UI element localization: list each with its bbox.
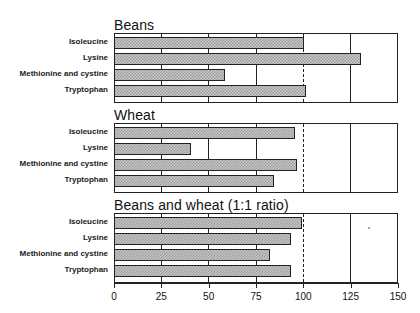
bar-lysine [115,143,191,155]
panel-title-beans: Beans [114,18,154,32]
row-label-isoleucine: Isoleucine [69,127,108,137]
x-tick-label-50: 50 [203,291,214,303]
bar-lysine [115,233,291,245]
row-label-tryptophan: Tryptophan [64,85,108,95]
row-label-methionine-and-cystine: Methionine and cystine [20,159,108,169]
panel-title-wheat: Wheat [114,108,155,122]
x-tick-label-0: 0 [111,291,117,303]
bar-isoleucine [115,127,295,139]
x-tick-125 [351,283,352,288]
bar-methionine-and-cystine [115,249,270,261]
reference-line-100 [303,124,304,192]
bar-tryptophan [115,265,291,277]
bar-isoleucine [115,217,302,229]
bar-methionine-and-cystine [115,159,297,171]
x-tick-label-75: 75 [250,291,261,303]
row-label-lysine: Lysine [83,143,108,153]
x-tick-50 [209,283,210,288]
bar-lysine [115,53,361,65]
x-tick-0 [114,283,115,288]
amino-acid-chart: Beans Wheat Beans and wheat (1:1 ratio) … [0,0,420,313]
x-tick-label-125: 125 [342,291,359,303]
panel-wheat [114,123,398,193]
row-label-tryptophan: Tryptophan [64,265,108,275]
bar-isoleucine [115,37,304,49]
bar-tryptophan [115,175,274,187]
row-label-tryptophan: Tryptophan [64,175,108,185]
x-tick-150 [398,283,399,288]
gridline-125 [350,34,351,102]
row-label-lysine: Lysine [83,53,108,63]
gridline-125 [350,124,351,192]
row-label-isoleucine: Isoleucine [69,37,108,47]
x-tick-100 [303,283,304,288]
gridline-125 [350,214,351,282]
reference-line-100 [303,214,304,282]
x-tick-label-100: 100 [295,291,312,303]
scan-speck [368,227,370,229]
panel-beans [114,33,398,103]
x-tick-25 [161,283,162,288]
x-tick-label-25: 25 [156,291,167,303]
panel-beans-and-wheat [114,213,398,283]
bar-tryptophan [115,85,306,97]
panel-title-beans-and-wheat: Beans and wheat (1:1 ratio) [114,198,289,212]
x-tick-75 [256,283,257,288]
bar-methionine-and-cystine [115,69,225,81]
row-label-methionine-and-cystine: Methionine and cystine [20,249,108,259]
row-label-isoleucine: Isoleucine [69,217,108,227]
row-label-lysine: Lysine [83,233,108,243]
row-label-methionine-and-cystine: Methionine and cystine [20,69,108,79]
x-tick-label-150: 150 [390,291,407,303]
